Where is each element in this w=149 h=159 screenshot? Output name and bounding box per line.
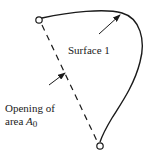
endpoint-bottom-circle bbox=[97, 143, 103, 149]
opening-dashed-line bbox=[42, 25, 97, 141]
area-symbol: A bbox=[26, 115, 33, 127]
surface-1-curve bbox=[42, 11, 142, 142]
surface-opening-diagram bbox=[0, 0, 149, 159]
area-subscript: 0 bbox=[33, 119, 38, 129]
opening-arrow bbox=[49, 73, 65, 85]
surface-1-arrow bbox=[99, 15, 120, 34]
surface-1-label: Surface 1 bbox=[68, 44, 110, 56]
opening-label-prefix: area bbox=[5, 115, 26, 127]
endpoint-top-circle bbox=[36, 17, 42, 23]
opening-label-line1: Opening of bbox=[5, 102, 55, 114]
opening-label-line2: area A0 bbox=[5, 115, 37, 127]
